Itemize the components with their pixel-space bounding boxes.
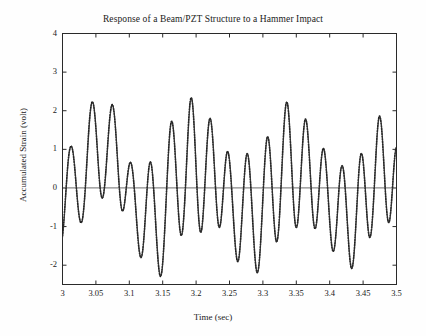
y-tick-label: 1 bbox=[31, 143, 57, 153]
y-tick-label: 4 bbox=[31, 28, 57, 38]
y-tick-label: 3 bbox=[31, 66, 57, 76]
x-axis-label: Time (sec) bbox=[0, 312, 426, 322]
plot-svg bbox=[62, 33, 397, 285]
y-tick-label: 0 bbox=[31, 182, 57, 192]
chart-title: Response of a Beam/PZT Structure to a Ha… bbox=[0, 14, 426, 24]
y-tick-label: -1 bbox=[31, 221, 57, 231]
y-axis-label: Accumulated Strain (volt) bbox=[18, 80, 28, 230]
figure-canvas: Response of a Beam/PZT Structure to a Ha… bbox=[0, 0, 426, 336]
x-tick-label: 3.5 bbox=[377, 288, 417, 298]
plot-area bbox=[62, 33, 397, 285]
y-tick-label: 2 bbox=[31, 105, 57, 115]
y-tick-label: -2 bbox=[31, 259, 57, 269]
